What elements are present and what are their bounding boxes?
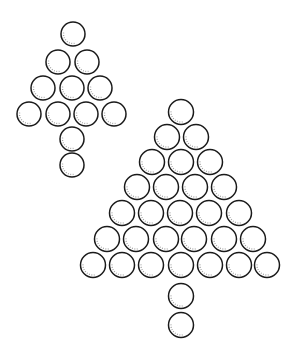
ornament-ball bbox=[183, 175, 208, 200]
ornament-ball bbox=[169, 150, 194, 175]
ornament-ball bbox=[110, 253, 135, 278]
ornament-ball bbox=[81, 253, 106, 278]
ornament-ball bbox=[169, 100, 194, 125]
ornament-ball bbox=[154, 175, 179, 200]
ornament-ball bbox=[212, 175, 237, 200]
christmas-tree-illustration bbox=[0, 0, 295, 357]
ornament-ball bbox=[169, 253, 194, 278]
ornament-ball bbox=[60, 76, 84, 100]
trunk-ball bbox=[169, 284, 194, 309]
ornament-ball bbox=[75, 50, 99, 74]
ornament-ball bbox=[241, 227, 266, 252]
ornament-ball bbox=[184, 125, 209, 150]
ornament-ball bbox=[154, 227, 179, 252]
trunk-ball bbox=[60, 127, 84, 151]
ornament-ball bbox=[198, 253, 223, 278]
ornament-ball bbox=[227, 253, 252, 278]
ornament-ball bbox=[139, 253, 164, 278]
ornament-ball bbox=[102, 102, 126, 126]
trunk-ball bbox=[169, 313, 194, 338]
ornament-ball bbox=[197, 201, 222, 226]
ornament-ball bbox=[182, 227, 207, 252]
ornament-ball bbox=[155, 125, 180, 150]
ornament-ball bbox=[110, 201, 135, 226]
ornament-ball bbox=[95, 227, 120, 252]
ornament-ball bbox=[198, 150, 223, 175]
ornament-ball bbox=[140, 150, 165, 175]
ornament-ball bbox=[17, 102, 41, 126]
ornament-ball bbox=[31, 76, 55, 100]
ornament-ball bbox=[124, 227, 149, 252]
trunk-ball bbox=[60, 153, 84, 177]
large-tree bbox=[81, 100, 280, 338]
ornament-ball bbox=[212, 227, 237, 252]
ornament-ball bbox=[139, 201, 164, 226]
ornament-ball bbox=[46, 50, 70, 74]
ornament-ball bbox=[125, 175, 150, 200]
ornament-ball bbox=[88, 76, 112, 100]
ornament-ball bbox=[74, 102, 98, 126]
ornament-ball bbox=[227, 201, 252, 226]
ornament-ball bbox=[61, 22, 85, 46]
ornament-ball bbox=[255, 253, 280, 278]
ornament-ball bbox=[46, 102, 70, 126]
small-tree bbox=[17, 22, 126, 177]
ornament-ball bbox=[168, 201, 193, 226]
